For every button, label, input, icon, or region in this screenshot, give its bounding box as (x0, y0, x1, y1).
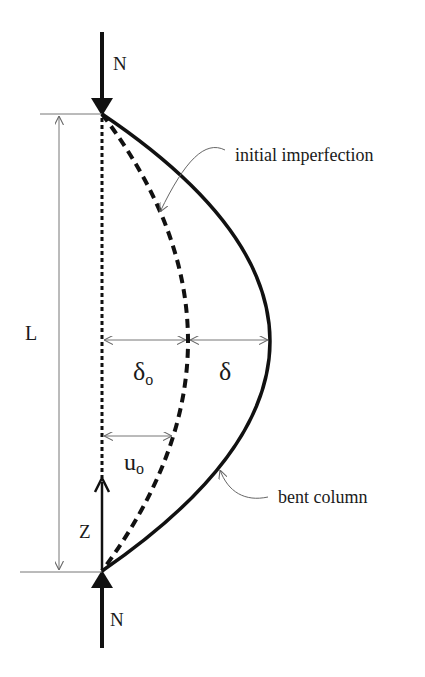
z-axis-label: Z (79, 521, 91, 542)
initial-imperfection-leader (160, 148, 225, 212)
delta-o-subscript: o (145, 371, 153, 388)
z-axis-arrow (95, 478, 109, 570)
top-load-arrow (91, 32, 113, 116)
u-o-label: uo (124, 449, 144, 477)
bottom-load-label: N (110, 609, 124, 630)
bent-column-label: bent column (278, 487, 367, 507)
u-o-symbol: u (124, 449, 136, 475)
delta-o-label: δo (133, 357, 153, 388)
initial-imperfection-curve (102, 114, 188, 571)
length-label: L (25, 322, 37, 344)
diagram-svg: N N L Z δo δ uo initial imperfection ben… (0, 0, 425, 677)
u-o-subscript: o (136, 460, 144, 477)
initial-imperfection-label: initial imperfection (235, 145, 373, 165)
column-buckling-diagram: N N L Z δo δ uo initial imperfection ben… (0, 0, 425, 677)
delta-label: δ (219, 357, 231, 386)
bent-column-leader (220, 470, 268, 498)
top-load-label: N (113, 53, 127, 74)
delta-o-symbol: δ (133, 357, 145, 386)
